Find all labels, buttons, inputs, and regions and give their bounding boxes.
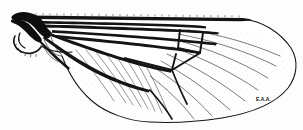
wing-drawing-svg: E.A.A. [0,0,303,130]
calypter-fringe [15,44,36,57]
wing-illustration-figure: E.A.A. [0,0,303,130]
svg-text:E.A.A.: E.A.A. [256,96,271,102]
artist-signature: E.A.A. [256,96,271,102]
